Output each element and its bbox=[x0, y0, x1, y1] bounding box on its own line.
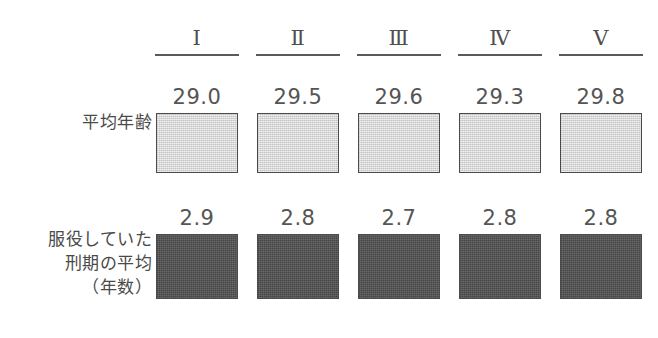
column-header-row: Ⅰ Ⅱ Ⅲ Ⅳ Ⅴ bbox=[155, 12, 645, 56]
column-header-rule bbox=[559, 54, 643, 56]
bar-value-label: 2.7 bbox=[382, 205, 417, 231]
bar-value-label: 29.8 bbox=[577, 84, 626, 110]
bar-cell: 29.5 bbox=[256, 84, 340, 173]
bar-dark bbox=[156, 234, 238, 299]
bar-value-label: 2.9 bbox=[180, 205, 215, 231]
bar-light bbox=[156, 113, 238, 173]
column-header-label: Ⅴ bbox=[593, 26, 609, 50]
bar-cell: 29.8 bbox=[559, 84, 643, 173]
bar-value-label: 29.0 bbox=[173, 84, 222, 110]
column-header-label: Ⅰ bbox=[193, 26, 202, 50]
bar-value-label: 2.8 bbox=[483, 205, 518, 231]
column-header-rule bbox=[155, 54, 239, 56]
data-row-average-age: 平均年齢 29.0 29.5 29.6 29.3 29.8 bbox=[0, 84, 658, 180]
bar-light bbox=[257, 113, 339, 173]
row-label-average-age: 平均年齢 bbox=[7, 110, 152, 134]
bar-value-label: 29.3 bbox=[476, 84, 525, 110]
bar-dark bbox=[459, 234, 541, 299]
bar-cell: 2.9 bbox=[155, 205, 239, 299]
column-header-rule bbox=[357, 54, 441, 56]
bar-value-label: 2.8 bbox=[281, 205, 316, 231]
bar-dark bbox=[358, 234, 440, 299]
bar-value-label: 29.5 bbox=[274, 84, 323, 110]
row-label-average-term: 服役していた 刑期の平均 （年数） bbox=[7, 227, 152, 299]
bar-light bbox=[358, 113, 440, 173]
column-header-label: Ⅲ bbox=[389, 26, 410, 50]
column-header-label: Ⅳ bbox=[489, 26, 510, 50]
bar-cells-average-age: 29.0 29.5 29.6 29.3 29.8 bbox=[155, 84, 643, 173]
bar-dark bbox=[560, 234, 642, 299]
column-header-1: Ⅰ bbox=[155, 12, 239, 56]
bar-dark bbox=[257, 234, 339, 299]
column-header-4: Ⅳ bbox=[458, 12, 542, 56]
bar-value-label: 2.8 bbox=[584, 205, 619, 231]
column-header-2: Ⅱ bbox=[256, 12, 340, 56]
column-header-3: Ⅲ bbox=[357, 12, 441, 56]
bar-cell: 2.8 bbox=[559, 205, 643, 299]
bar-cell: 2.8 bbox=[256, 205, 340, 299]
bar-cell: 29.0 bbox=[155, 84, 239, 173]
bar-value-label: 29.6 bbox=[375, 84, 424, 110]
column-header-rule bbox=[256, 54, 340, 56]
bar-cell: 2.7 bbox=[357, 205, 441, 299]
bar-cell: 2.8 bbox=[458, 205, 542, 299]
bar-cell: 29.3 bbox=[458, 84, 542, 173]
bar-cells-average-term: 2.9 2.8 2.7 2.8 2.8 bbox=[155, 205, 643, 299]
column-header-rule bbox=[458, 54, 542, 56]
column-header-label: Ⅱ bbox=[291, 26, 306, 50]
bar-cell: 29.6 bbox=[357, 84, 441, 173]
bar-light bbox=[560, 113, 642, 173]
grouped-bar-figure: Ⅰ Ⅱ Ⅲ Ⅳ Ⅴ 平均年齢 29.0 29.5 bbox=[0, 0, 658, 338]
data-row-average-term: 服役していた 刑期の平均 （年数） 2.9 2.8 2.7 2.8 2.8 bbox=[0, 205, 658, 307]
column-header-5: Ⅴ bbox=[559, 12, 643, 56]
bar-light bbox=[459, 113, 541, 173]
